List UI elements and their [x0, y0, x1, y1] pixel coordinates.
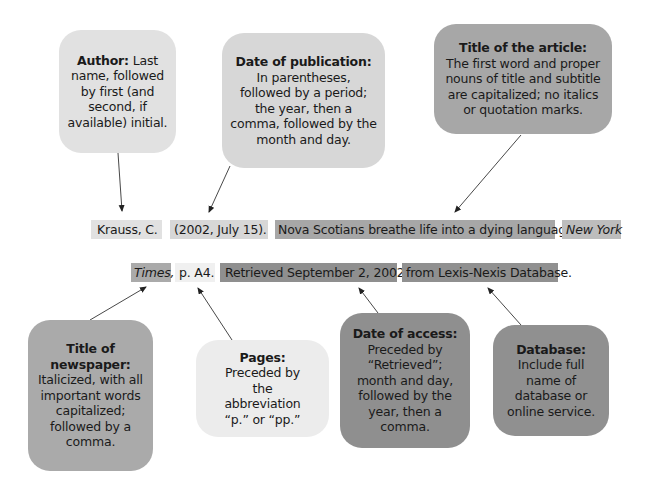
arrow-database — [488, 288, 521, 325]
callout-newspaper-heading: Title of newspaper: — [36, 341, 145, 372]
callout-database-text: Include full name of database or online … — [501, 357, 601, 419]
callout-date-publication-text: In parentheses, followed by a period; th… — [230, 70, 377, 148]
citation-retrieved: Retrieved September 2, 2002, — [220, 263, 397, 282]
arrow-author — [118, 153, 122, 211]
callout-newspaper-text: Italicized, with all important words cap… — [36, 372, 145, 450]
callout-title-article: Title of the article: The first word and… — [434, 24, 612, 134]
callout-date-publication: Date of publication: In parentheses, fol… — [222, 33, 385, 168]
citation-pages: p. A4. — [175, 263, 215, 282]
callout-pages-heading: Pages: — [240, 350, 286, 366]
callout-author: Author: Last name, followed by first (an… — [59, 30, 176, 153]
callout-pages: Pages: Preceded by the abbreviation “p.”… — [196, 340, 329, 437]
arrow-date-publication — [209, 166, 230, 212]
callout-date-access-heading: Date of access: — [353, 326, 458, 342]
arrow-newspaper — [90, 287, 146, 320]
callout-title-article-heading: Title of the article: — [459, 40, 587, 56]
citation-database: from Lexis-Nexis Database. — [402, 263, 558, 282]
callout-pages-text: Preceded by the abbreviation “p.” or “pp… — [204, 365, 321, 427]
citation-newspaper-part2: Times, — [131, 263, 171, 282]
callout-database-heading: Database: — [516, 342, 586, 358]
arrow-title-article — [455, 135, 521, 212]
citation-title: Nova Scotians breathe life into a dying … — [275, 220, 555, 239]
callout-newspaper: Title of newspaper: Italicized, with all… — [28, 320, 153, 471]
callout-date-publication-heading: Date of publication: — [236, 54, 372, 70]
callout-date-access: Date of access: Preceded by “Retrieved”;… — [340, 313, 470, 448]
callout-database: Database: Include full name of database … — [493, 325, 609, 436]
callout-author-heading: Author: — [77, 53, 129, 68]
citation-date: (2002, July 15). — [170, 220, 268, 239]
arrow-pages — [198, 288, 232, 340]
citation-author: Krauss, C. — [91, 220, 162, 239]
arrow-date-access — [359, 288, 378, 313]
callout-title-article-text: The first word and proper nouns of title… — [442, 56, 604, 118]
citation-newspaper-part1: New York — [562, 220, 621, 239]
callout-date-access-text: Preceded by “Retrieved”; month and day, … — [348, 342, 462, 435]
